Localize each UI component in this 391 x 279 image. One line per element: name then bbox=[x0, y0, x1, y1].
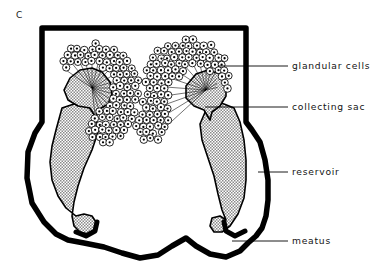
glandular-cell-nucleus bbox=[149, 75, 151, 77]
glandular-cell-nucleus bbox=[200, 63, 202, 65]
glandular-cell-nucleus bbox=[145, 131, 147, 133]
glandular-cell-nucleus bbox=[145, 81, 147, 83]
reservoir-right bbox=[200, 102, 246, 232]
glandular-cell-nucleus bbox=[166, 107, 168, 109]
glandular-cell-nucleus bbox=[206, 64, 208, 66]
glandular-cell-nucleus bbox=[123, 129, 125, 131]
glandular-cell-nucleus bbox=[112, 86, 114, 88]
glandular-cell-nucleus bbox=[228, 75, 230, 77]
glandular-cell-nucleus bbox=[113, 49, 115, 51]
glandular-cell-nucleus bbox=[155, 63, 157, 65]
glandular-cell-nucleus bbox=[119, 73, 121, 75]
glandular-cell-nucleus bbox=[115, 104, 117, 106]
glandular-cell-nucleus bbox=[135, 125, 137, 127]
glandular-cell-nucleus bbox=[123, 92, 125, 94]
glandular-cell-nucleus bbox=[167, 119, 169, 121]
glandular-cell-nucleus bbox=[84, 61, 86, 63]
glandular-cell-nucleus bbox=[102, 66, 104, 68]
glandular-cell-nucleus bbox=[149, 114, 151, 116]
glandular-cell-nucleus bbox=[129, 92, 131, 94]
panel-label: C bbox=[16, 10, 23, 20]
glandular-cell-nucleus bbox=[182, 70, 184, 72]
glandular-cell-nucleus bbox=[134, 98, 136, 100]
glandular-cell-nucleus bbox=[119, 124, 121, 126]
glandular-cell-nucleus bbox=[139, 131, 141, 133]
glandular-cell-nucleus bbox=[152, 119, 154, 121]
glandular-cell-nucleus bbox=[101, 128, 103, 130]
glandular-cell-nucleus bbox=[106, 110, 108, 112]
glandular-cell-nucleus bbox=[171, 51, 173, 53]
glandular-cell-nucleus bbox=[118, 61, 120, 63]
glandular-cell-nucleus bbox=[209, 70, 211, 72]
glandular-cell-nucleus bbox=[109, 116, 111, 118]
glandular-cell-nucleus bbox=[122, 55, 124, 57]
glandular-cell-nucleus bbox=[178, 62, 180, 64]
glandular-cell-nucleus bbox=[91, 136, 93, 138]
glandular-cell-nucleus bbox=[76, 47, 78, 49]
glandular-cell-nucleus bbox=[156, 87, 158, 89]
callout-group-reservoir: reservoir bbox=[258, 166, 340, 177]
glandular-cell-nucleus bbox=[62, 60, 64, 62]
glandular-cell-nucleus bbox=[115, 93, 117, 95]
glandular-cell-nucleus bbox=[99, 136, 101, 138]
glandular-cell-nucleus bbox=[91, 123, 93, 125]
glandular-cell-nucleus bbox=[220, 64, 222, 66]
glandular-cell-nucleus bbox=[173, 56, 175, 58]
glandular-cell-nucleus bbox=[74, 54, 76, 56]
glandular-cell-nucleus bbox=[167, 45, 169, 47]
glandular-cell-nucleus bbox=[157, 138, 159, 140]
glandular-cell-nucleus bbox=[145, 119, 147, 121]
glandular-cell-nucleus bbox=[127, 123, 129, 125]
glandular-cell-nucleus bbox=[174, 44, 176, 46]
glandular-cell-nucleus bbox=[184, 63, 186, 65]
glandular-cell-nucleus bbox=[149, 137, 151, 139]
glandular-cell-nucleus bbox=[122, 67, 124, 69]
glandular-cell-nucleus bbox=[166, 57, 168, 59]
glandular-cell-nucleus bbox=[149, 125, 151, 127]
anatomical-diagram: C glandular cells collecting sac reservo… bbox=[0, 0, 391, 279]
glandular-cell-nucleus bbox=[141, 113, 143, 115]
glandular-cell-nucleus bbox=[182, 45, 184, 47]
glandular-cell-nucleus bbox=[87, 55, 89, 57]
glandular-cell-nucleus bbox=[94, 117, 96, 119]
glandular-cell-nucleus bbox=[91, 48, 93, 50]
glandular-cell-nucleus bbox=[156, 101, 158, 103]
callout-label-reservoir: reservoir bbox=[292, 166, 340, 177]
glandular-cell-nucleus bbox=[119, 85, 121, 87]
glandular-cell-nucleus bbox=[123, 104, 125, 106]
callout-label-glandular-cells: glandular cells bbox=[292, 60, 370, 71]
glandular-cell-nucleus bbox=[126, 60, 128, 62]
glandular-cell-nucleus bbox=[126, 86, 128, 88]
glandular-cell-nucleus bbox=[109, 54, 111, 56]
glandular-cell-nucleus bbox=[133, 111, 135, 113]
glandular-cell-nucleus bbox=[209, 57, 211, 59]
glandular-cell-nucleus bbox=[93, 54, 95, 56]
glandular-cell-nucleus bbox=[160, 82, 162, 84]
glandular-cell-nucleus bbox=[164, 62, 166, 64]
glandular-cell-nucleus bbox=[104, 136, 106, 138]
callout-label-meatus: meatus bbox=[292, 235, 331, 246]
glandular-cell-nucleus bbox=[102, 141, 104, 143]
glandular-cell-nucleus bbox=[205, 51, 207, 53]
glandular-cell-nucleus bbox=[109, 141, 111, 143]
glandular-cell-nucleus bbox=[126, 99, 128, 101]
glandular-cell-nucleus bbox=[70, 60, 72, 62]
glandular-cell-nucleus bbox=[98, 48, 100, 50]
glandular-cell-nucleus bbox=[99, 124, 101, 126]
glandular-cell-nucleus bbox=[83, 49, 85, 51]
glandular-cell-nucleus bbox=[167, 81, 169, 83]
glandular-cell-nucleus bbox=[142, 101, 144, 103]
glandular-cell-nucleus bbox=[156, 75, 158, 77]
glandular-cell-nucleus bbox=[112, 110, 114, 112]
glandular-cell-nucleus bbox=[167, 94, 169, 96]
glandular-cell-nucleus bbox=[146, 69, 148, 71]
glandular-cell-nucleus bbox=[192, 38, 194, 40]
glandular-cell-nucleus bbox=[217, 69, 219, 71]
glandular-cell-nucleus bbox=[195, 57, 197, 59]
glandular-cell-nucleus bbox=[138, 119, 140, 121]
glandular-cell-nucleus bbox=[217, 57, 219, 59]
glandular-cell-nucleus bbox=[160, 69, 162, 71]
glandular-cell-nucleus bbox=[101, 54, 103, 56]
glandular-cell-nucleus bbox=[152, 69, 154, 71]
glandular-cell-nucleus bbox=[105, 48, 107, 50]
